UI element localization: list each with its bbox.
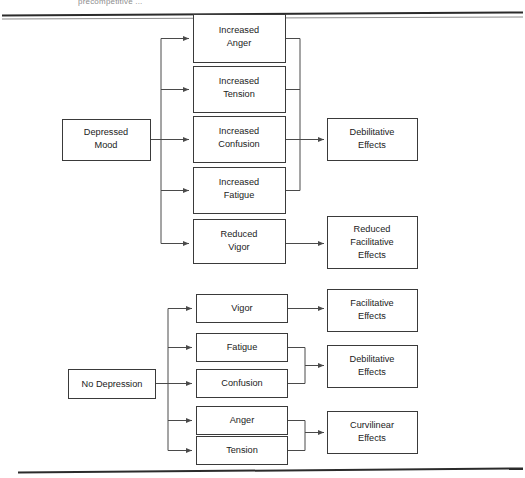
node-curvilinear-effects[interactable]: Curvilinear Effects bbox=[328, 412, 418, 454]
node-vigor-line-1: Vigor bbox=[231, 303, 252, 313]
node-increased-confusion-line-2: Confusion bbox=[218, 139, 259, 149]
node-debilitative-effects-lower-line-2: Effects bbox=[358, 367, 386, 377]
node-debilitative-effects-lower[interactable]: Debilitative Effects bbox=[328, 346, 418, 388]
node-reduced-facilitative-effects-line-3: Effects bbox=[358, 250, 386, 260]
node-increased-tension-line-2: Tension bbox=[223, 89, 255, 99]
node-curvilinear-effects-line-2: Effects bbox=[358, 433, 386, 443]
node-fatigue[interactable]: Fatigue bbox=[197, 334, 288, 362]
node-increased-confusion-line-1: Increased bbox=[219, 126, 259, 136]
node-debilitative-effects-lower-line-1: Debilitative bbox=[350, 354, 395, 364]
node-facilitative-effects-line-2: Effects bbox=[358, 311, 386, 321]
node-reduced-facilitative-effects-line-1: Reduced bbox=[354, 224, 391, 234]
flowchart-canvas: Depressed Mood Increased Anger Increased… bbox=[0, 0, 525, 478]
diagram-page: precompetitive ... bbox=[0, 0, 525, 478]
node-anger[interactable]: Anger bbox=[197, 407, 288, 435]
node-increased-fatigue[interactable]: Increased Fatigue bbox=[194, 168, 286, 214]
node-increased-fatigue-line-2: Fatigue bbox=[224, 190, 255, 200]
node-increased-tension[interactable]: Increased Tension bbox=[194, 67, 286, 113]
node-debilitative-effects-upper-line-2: Effects bbox=[358, 140, 386, 150]
node-increased-anger-line-2: Anger bbox=[227, 38, 252, 48]
node-debilitative-effects-upper[interactable]: Debilitative Effects bbox=[328, 119, 418, 161]
node-tension[interactable]: Tension bbox=[197, 437, 288, 465]
node-anger-line-1: Anger bbox=[230, 415, 255, 425]
node-reduced-facilitative-effects-line-2: Facilitative bbox=[350, 237, 393, 247]
node-debilitative-effects-upper-line-1: Debilitative bbox=[350, 127, 395, 137]
node-reduced-vigor[interactable]: Reduced Vigor bbox=[194, 220, 286, 264]
node-increased-tension-line-1: Increased bbox=[219, 76, 259, 86]
node-depressed-mood-line-2: Mood bbox=[95, 140, 118, 150]
node-curvilinear-effects-line-1: Curvilinear bbox=[350, 420, 394, 430]
node-increased-confusion[interactable]: Increased Confusion bbox=[194, 117, 286, 163]
node-depressed-mood[interactable]: Depressed Mood bbox=[63, 120, 151, 161]
node-facilitative-effects[interactable]: Facilitative Effects bbox=[328, 290, 418, 332]
node-reduced-facilitative-effects[interactable]: Reduced Facilitative Effects bbox=[328, 217, 418, 269]
node-fatigue-line-1: Fatigue bbox=[227, 342, 258, 352]
node-tension-line-1: Tension bbox=[226, 445, 258, 455]
node-reduced-vigor-line-2: Vigor bbox=[228, 242, 249, 252]
node-confusion[interactable]: Confusion bbox=[197, 370, 288, 398]
node-reduced-vigor-line-1: Reduced bbox=[221, 229, 258, 239]
node-vigor[interactable]: Vigor bbox=[197, 295, 288, 323]
bottom-divider-rule bbox=[18, 469, 523, 473]
node-no-depression-line-1: No Depression bbox=[82, 379, 143, 389]
node-increased-anger-line-1: Increased bbox=[219, 25, 259, 35]
node-depressed-mood-line-1: Depressed bbox=[84, 127, 128, 137]
node-no-depression[interactable]: No Depression bbox=[69, 370, 156, 399]
node-facilitative-effects-line-1: Facilitative bbox=[350, 298, 393, 308]
node-increased-anger[interactable]: Increased Anger bbox=[194, 15, 286, 63]
node-confusion-line-1: Confusion bbox=[221, 378, 262, 388]
node-increased-fatigue-line-1: Increased bbox=[219, 177, 259, 187]
